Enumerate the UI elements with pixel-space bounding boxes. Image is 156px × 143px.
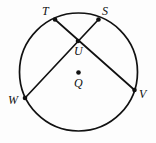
point-label-V: V xyxy=(139,88,146,100)
point-T-dot xyxy=(53,17,58,22)
point-U-dot xyxy=(76,39,81,44)
point-label-S: S xyxy=(102,5,108,17)
point-V-dot xyxy=(132,88,137,93)
center-point-Q-dot xyxy=(76,70,81,75)
point-W-dot xyxy=(23,96,28,101)
chord-TV xyxy=(55,20,135,91)
circle-geometry-figure: T S U W V Q xyxy=(0,0,156,143)
geometry-canvas xyxy=(0,0,156,143)
point-S-dot xyxy=(96,17,101,22)
point-label-W: W xyxy=(8,94,18,106)
point-label-T: T xyxy=(42,5,49,17)
center-label-Q: Q xyxy=(74,77,83,89)
point-label-U: U xyxy=(74,45,83,57)
